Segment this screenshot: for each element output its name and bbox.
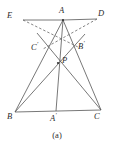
figure-canvas (0, 0, 114, 149)
label-D: D (98, 9, 104, 18)
label-P: P (62, 56, 67, 65)
label-E: E (7, 11, 12, 20)
label-A-prime: A′ (50, 112, 57, 122)
segment-B-C (15, 110, 101, 112)
segment-A-D (63, 19, 97, 20)
label-B-prime: B′ (78, 40, 85, 50)
cevian-C-Cprime (37, 33, 101, 110)
vertex-dot-P (57, 62, 59, 64)
dashed-D-Cprime (43, 19, 97, 49)
segment-A-C (63, 20, 101, 110)
figure-caption: (a) (0, 130, 114, 140)
vertex-dot-A (62, 19, 64, 21)
geometry-figure: E A D C′ B′ P B A′ C (a) (0, 0, 114, 149)
label-C-prime: C′ (31, 41, 38, 51)
label-A: A (59, 6, 64, 15)
label-B: B (7, 112, 12, 121)
label-C: C (94, 112, 100, 121)
